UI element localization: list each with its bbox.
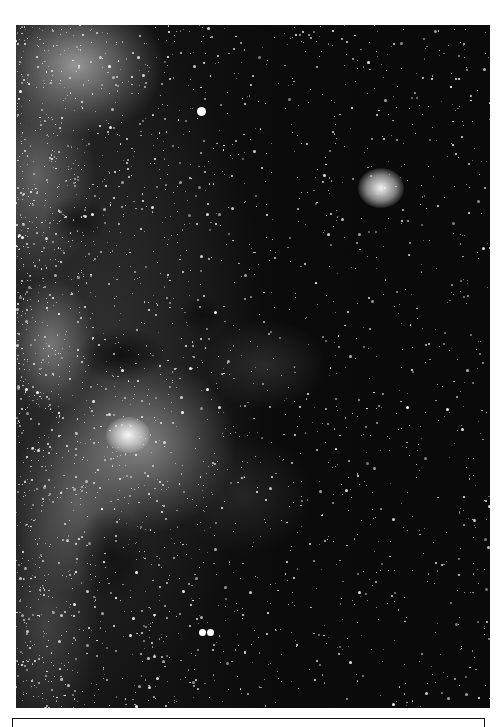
- nebula-core: [106, 417, 150, 453]
- star-field: [16, 25, 490, 708]
- double-star-a: [199, 629, 206, 636]
- bright-star: [197, 107, 206, 116]
- double-star-b: [207, 629, 214, 636]
- open-star-cluster: [358, 168, 404, 208]
- star-field-photo: [16, 25, 490, 708]
- caption-frame: [12, 718, 485, 727]
